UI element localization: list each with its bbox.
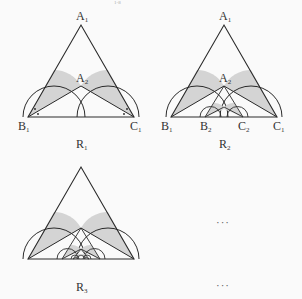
label-r1-c1: C1 xyxy=(130,120,142,134)
label-r2-c1: C1 xyxy=(273,120,285,134)
label-r2-b2: B2 xyxy=(200,120,212,134)
caption-r1: R1 xyxy=(76,138,88,152)
label-r2-b1: B1 xyxy=(161,120,173,134)
ellipsis-figure: ··· xyxy=(216,216,230,228)
ellipsis-caption: ··· xyxy=(216,279,230,291)
diagram-canvas: 1-8 xyxy=(0,0,302,299)
label-r2-a2: A2 xyxy=(219,72,231,86)
label-r1-a1: A1 xyxy=(76,10,88,24)
label-r1-b1: B1 xyxy=(18,120,30,134)
caption-r2: R2 xyxy=(219,138,231,152)
label-r1-a2: A2 xyxy=(76,72,88,86)
geometry-drawing xyxy=(0,0,302,299)
label-r2-c2: C2 xyxy=(238,120,250,134)
label-r2-a1: A1 xyxy=(219,10,231,24)
figure-r3 xyxy=(23,167,139,259)
caption-r3: R3 xyxy=(76,281,88,295)
